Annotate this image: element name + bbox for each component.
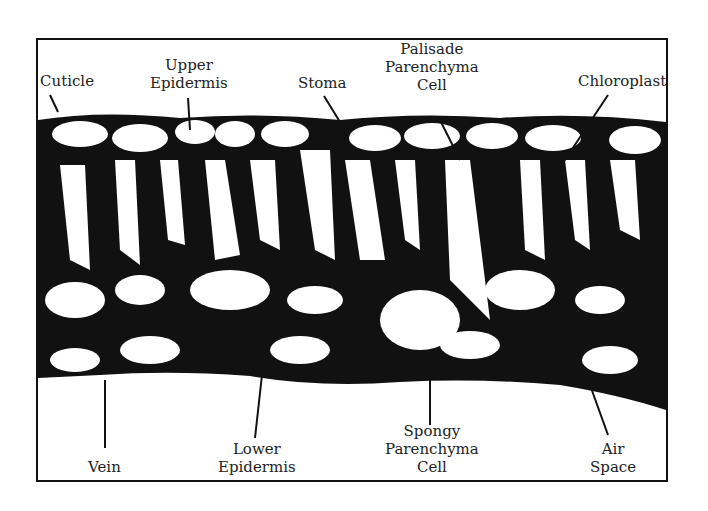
label-stoma: Stoma bbox=[298, 74, 347, 92]
label-palisade-parenchyma-cell: Palisade Parenchyma Cell bbox=[385, 40, 479, 94]
label-upper-epidermis: Upper Epidermis bbox=[150, 56, 228, 92]
label-chloroplast: Chloroplast bbox=[578, 72, 666, 90]
label-spongy-parenchyma-cell: Spongy Parenchyma Cell bbox=[385, 422, 479, 476]
label-vein: Vein bbox=[88, 458, 121, 476]
label-lower-epidermis: Lower Epidermis bbox=[218, 440, 296, 476]
label-cuticle: Cuticle bbox=[40, 72, 94, 90]
label-air-space: Air Space bbox=[590, 440, 636, 476]
